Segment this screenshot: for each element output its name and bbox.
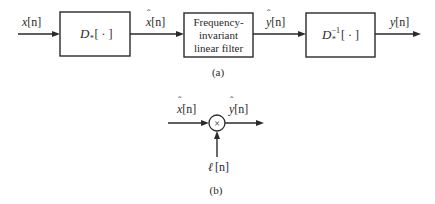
homomorphic-filtering-diagram: x[n] D*[ · ] x[n] ˆ Frequency- invariant… xyxy=(0,0,435,204)
arrow-block2-to-block3 xyxy=(253,31,306,37)
multiplier-node: × xyxy=(209,115,225,131)
multiplier-output-arrow xyxy=(225,120,264,126)
block-linear-filter: Frequency- invariant linear filter xyxy=(184,13,253,57)
caption-a: (a) xyxy=(212,66,225,79)
filter-label-line3: linear filter xyxy=(194,42,244,54)
window-signal-label: ℓ[n] xyxy=(208,160,229,174)
multiplier-input-arrow xyxy=(168,120,209,126)
arrow-block1-to-block2 xyxy=(130,31,184,37)
block-inverse-homomorphic-system: D*−1[ · ] xyxy=(306,13,375,57)
input-arrow xyxy=(18,31,60,37)
output-arrow xyxy=(375,31,421,37)
filter-label-line2: invariant xyxy=(199,29,238,41)
filter-label-line1: Frequency- xyxy=(193,16,243,28)
window-arrow xyxy=(214,131,220,157)
block1-label: D*[ · ] xyxy=(79,26,112,43)
input-signal-label: x[n] xyxy=(21,15,41,29)
block3-label: D*−1[ · ] xyxy=(321,26,359,44)
output-signal-label: y[n] xyxy=(389,15,409,29)
block-homomorphic-system: D*[ · ] xyxy=(60,12,130,56)
caption-b: (b) xyxy=(210,184,223,197)
multiply-symbol: × xyxy=(214,118,220,129)
